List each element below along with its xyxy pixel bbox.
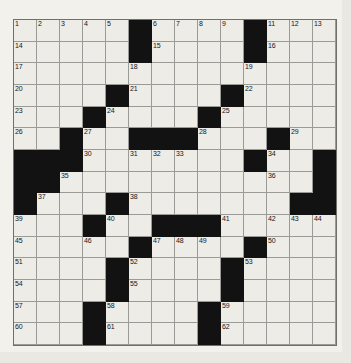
crossword-cell[interactable] xyxy=(175,63,198,85)
crossword-cell[interactable] xyxy=(198,280,221,302)
crossword-cell[interactable]: 54 xyxy=(14,280,37,302)
crossword-cell[interactable]: 1 xyxy=(14,20,37,42)
crossword-cell[interactable]: 11 xyxy=(267,20,290,42)
crossword-cell[interactable]: 51 xyxy=(14,258,37,280)
crossword-cell[interactable]: 58 xyxy=(106,302,129,324)
crossword-cell[interactable]: 22 xyxy=(244,85,267,107)
crossword-cell[interactable]: 34 xyxy=(267,150,290,172)
crossword-cell[interactable]: 37 xyxy=(37,193,60,215)
crossword-cell[interactable]: 23 xyxy=(14,107,37,129)
crossword-cell[interactable] xyxy=(267,258,290,280)
crossword-cell[interactable] xyxy=(290,85,313,107)
crossword-cell[interactable]: 52 xyxy=(129,258,152,280)
crossword-cell[interactable]: 3 xyxy=(60,20,83,42)
crossword-cell[interactable] xyxy=(83,258,106,280)
crossword-cell[interactable]: 15 xyxy=(152,42,175,64)
crossword-cell[interactable] xyxy=(175,42,198,64)
crossword-cell[interactable]: 57 xyxy=(14,302,37,324)
crossword-cell[interactable]: 2 xyxy=(37,20,60,42)
crossword-cell[interactable]: 59 xyxy=(221,302,244,324)
crossword-cell[interactable] xyxy=(244,193,267,215)
crossword-cell[interactable] xyxy=(175,302,198,324)
crossword-cell[interactable] xyxy=(60,107,83,129)
crossword-cell[interactable] xyxy=(37,323,60,345)
crossword-cell[interactable]: 40 xyxy=(106,215,129,237)
crossword-cell[interactable]: 6 xyxy=(152,20,175,42)
crossword-cell[interactable] xyxy=(198,172,221,194)
crossword-cell[interactable] xyxy=(60,215,83,237)
crossword-cell[interactable] xyxy=(313,237,336,259)
crossword-cell[interactable]: 35 xyxy=(60,172,83,194)
crossword-cell[interactable]: 8 xyxy=(198,20,221,42)
crossword-cell[interactable] xyxy=(60,193,83,215)
crossword-cell[interactable] xyxy=(37,85,60,107)
crossword-cell[interactable] xyxy=(313,128,336,150)
crossword-cell[interactable]: 39 xyxy=(14,215,37,237)
crossword-cell[interactable] xyxy=(244,302,267,324)
crossword-cell[interactable] xyxy=(290,172,313,194)
crossword-cell[interactable]: 31 xyxy=(129,150,152,172)
crossword-cell[interactable]: 12 xyxy=(290,20,313,42)
crossword-cell[interactable]: 14 xyxy=(14,42,37,64)
crossword-cell[interactable] xyxy=(290,323,313,345)
crossword-cell[interactable]: 24 xyxy=(106,107,129,129)
crossword-cell[interactable] xyxy=(267,63,290,85)
crossword-cell[interactable] xyxy=(83,42,106,64)
crossword-cell[interactable] xyxy=(313,258,336,280)
crossword-cell[interactable]: 32 xyxy=(152,150,175,172)
crossword-cell[interactable] xyxy=(106,128,129,150)
crossword-cell[interactable]: 29 xyxy=(290,128,313,150)
crossword-cell[interactable]: 28 xyxy=(198,128,221,150)
crossword-cell[interactable] xyxy=(60,237,83,259)
crossword-cell[interactable] xyxy=(198,193,221,215)
crossword-cell[interactable] xyxy=(290,302,313,324)
crossword-cell[interactable]: 53 xyxy=(244,258,267,280)
crossword-cell[interactable] xyxy=(175,280,198,302)
crossword-cell[interactable] xyxy=(37,42,60,64)
crossword-cell[interactable]: 38 xyxy=(129,193,152,215)
crossword-cell[interactable] xyxy=(106,237,129,259)
crossword-cell[interactable] xyxy=(313,63,336,85)
crossword-cell[interactable] xyxy=(290,258,313,280)
crossword-cell[interactable] xyxy=(152,85,175,107)
crossword-cell[interactable] xyxy=(313,107,336,129)
crossword-cell[interactable]: 19 xyxy=(244,63,267,85)
crossword-cell[interactable] xyxy=(152,323,175,345)
crossword-cell[interactable] xyxy=(290,237,313,259)
crossword-cell[interactable]: 4 xyxy=(83,20,106,42)
crossword-cell[interactable] xyxy=(267,302,290,324)
crossword-cell[interactable] xyxy=(244,323,267,345)
crossword-cell[interactable]: 16 xyxy=(267,42,290,64)
crossword-cell[interactable]: 55 xyxy=(129,280,152,302)
crossword-cell[interactable] xyxy=(267,280,290,302)
crossword-cell[interactable]: 5 xyxy=(106,20,129,42)
crossword-cell[interactable] xyxy=(198,42,221,64)
crossword-cell[interactable] xyxy=(244,172,267,194)
crossword-cell[interactable] xyxy=(244,280,267,302)
crossword-cell[interactable] xyxy=(221,128,244,150)
crossword-cell[interactable] xyxy=(37,258,60,280)
crossword-cell[interactable] xyxy=(129,323,152,345)
crossword-cell[interactable] xyxy=(37,107,60,129)
crossword-cell[interactable] xyxy=(37,280,60,302)
crossword-cell[interactable]: 49 xyxy=(198,237,221,259)
crossword-cell[interactable] xyxy=(106,63,129,85)
crossword-cell[interactable] xyxy=(60,63,83,85)
crossword-cell[interactable]: 7 xyxy=(175,20,198,42)
crossword-cell[interactable]: 26 xyxy=(14,128,37,150)
crossword-cell[interactable]: 21 xyxy=(129,85,152,107)
crossword-cell[interactable]: 27 xyxy=(83,128,106,150)
crossword-cell[interactable] xyxy=(221,150,244,172)
crossword-cell[interactable] xyxy=(290,280,313,302)
crossword-cell[interactable] xyxy=(267,107,290,129)
crossword-cell[interactable] xyxy=(60,302,83,324)
crossword-cell[interactable]: 9 xyxy=(221,20,244,42)
crossword-cell[interactable] xyxy=(60,323,83,345)
crossword-cell[interactable] xyxy=(175,107,198,129)
crossword-cell[interactable]: 43 xyxy=(290,215,313,237)
crossword-cell[interactable]: 33 xyxy=(175,150,198,172)
crossword-cell[interactable] xyxy=(175,193,198,215)
crossword-cell[interactable]: 47 xyxy=(152,237,175,259)
crossword-cell[interactable] xyxy=(244,128,267,150)
crossword-cell[interactable] xyxy=(83,280,106,302)
